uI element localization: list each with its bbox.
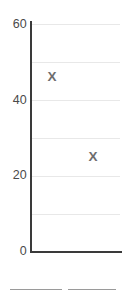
scatter-chart: 60 40 20 0 X X [0,0,125,296]
x-axis-line [30,251,122,253]
plot-area: 60 40 20 0 X X [0,0,125,296]
y-axis-line [30,21,32,253]
y-tick-label-60: 60 [0,18,27,31]
gridline-40 [32,100,120,101]
gridline-60 [32,24,120,25]
bottom-rule-right [68,289,116,290]
y-tick-label-20: 20 [0,169,27,182]
gridline-50 [32,62,120,63]
data-point-marker: X [45,70,59,84]
bottom-rule-left [10,289,62,290]
y-tick-label-40: 40 [0,94,27,107]
y-tick-label-0: 0 [0,245,27,258]
gridline-10 [32,214,120,215]
data-point-marker: X [86,150,100,164]
gridline-20 [32,176,120,177]
gridline-30 [32,138,120,139]
